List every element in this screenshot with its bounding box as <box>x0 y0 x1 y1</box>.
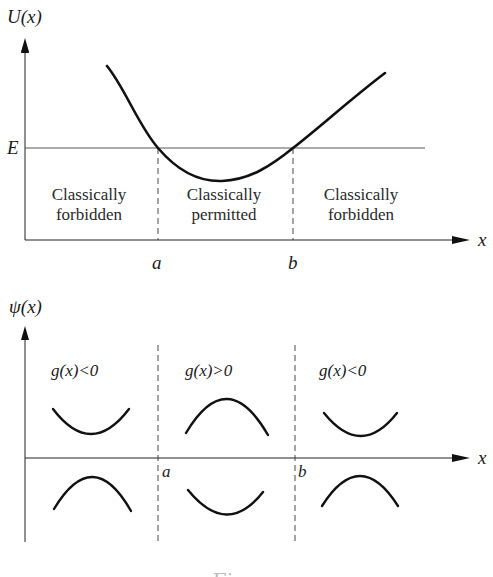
figure-caption: Figure <box>0 569 493 577</box>
region-left-forbidden: Classically forbidden <box>30 185 148 225</box>
condition-left: g(x)<0 <box>51 361 98 381</box>
condition-right: g(x)<0 <box>319 361 366 381</box>
condition-middle: g(x)>0 <box>185 361 232 381</box>
psi-arc-concave-down-2 <box>186 399 268 435</box>
energy-label: E <box>7 137 19 159</box>
wavefunction-plot <box>21 326 470 542</box>
psi-arc-concave-down-1 <box>54 477 131 511</box>
psi-arc-concave-up-3 <box>324 413 397 436</box>
turning-point-b-label-bottom: b <box>298 462 307 482</box>
psi-arc-concave-up-2 <box>188 490 263 515</box>
psi-arc-concave-down-3 <box>322 476 398 506</box>
x-axis-label-bottom: x <box>478 447 486 469</box>
psi-axis-label: ψ(x) <box>9 296 42 318</box>
x-axis-label-top: x <box>478 229 486 251</box>
turning-point-a-label: a <box>152 252 162 274</box>
u-axis-label: U(x) <box>7 6 42 28</box>
region-middle-permitted: Classically permitted <box>164 185 284 225</box>
region-right-forbidden: Classically forbidden <box>300 185 422 225</box>
turning-point-b-label: b <box>288 252 298 274</box>
potential-curve <box>107 66 385 181</box>
turning-point-a-label-bottom: a <box>162 462 171 482</box>
diagram-canvas <box>0 0 493 577</box>
psi-arc-concave-up-1 <box>53 409 129 434</box>
